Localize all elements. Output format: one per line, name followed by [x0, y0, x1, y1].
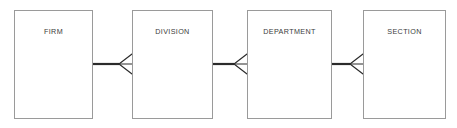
- entity-box-firm[interactable]: FIRM: [14, 10, 93, 119]
- crowsfoot-prong-upper-department-section: [350, 54, 363, 64]
- relationship-department-section[interactable]: [332, 54, 363, 74]
- crowsfoot-prong-lower-division-department: [234, 64, 247, 74]
- entity-label-department: DEPARTMENT: [248, 28, 331, 35]
- crowsfoot-prong-upper-division-department: [234, 54, 247, 64]
- entity-box-department[interactable]: DEPARTMENT: [247, 10, 332, 119]
- crowsfoot-prong-upper-firm-division: [119, 54, 132, 64]
- entity-label-division: DIVISION: [133, 28, 212, 35]
- entity-box-division[interactable]: DIVISION: [132, 10, 213, 119]
- entity-box-section[interactable]: SECTION: [363, 10, 446, 119]
- crowsfoot-prong-lower-department-section: [350, 64, 363, 74]
- crowsfoot-prong-lower-firm-division: [119, 64, 132, 74]
- entity-label-firm: FIRM: [15, 28, 92, 35]
- entity-label-section: SECTION: [364, 28, 445, 35]
- relationship-division-department[interactable]: [213, 54, 247, 74]
- er-diagram-canvas: FIRMDIVISIONDEPARTMENTSECTION: [0, 0, 457, 128]
- relationship-firm-division[interactable]: [93, 54, 132, 74]
